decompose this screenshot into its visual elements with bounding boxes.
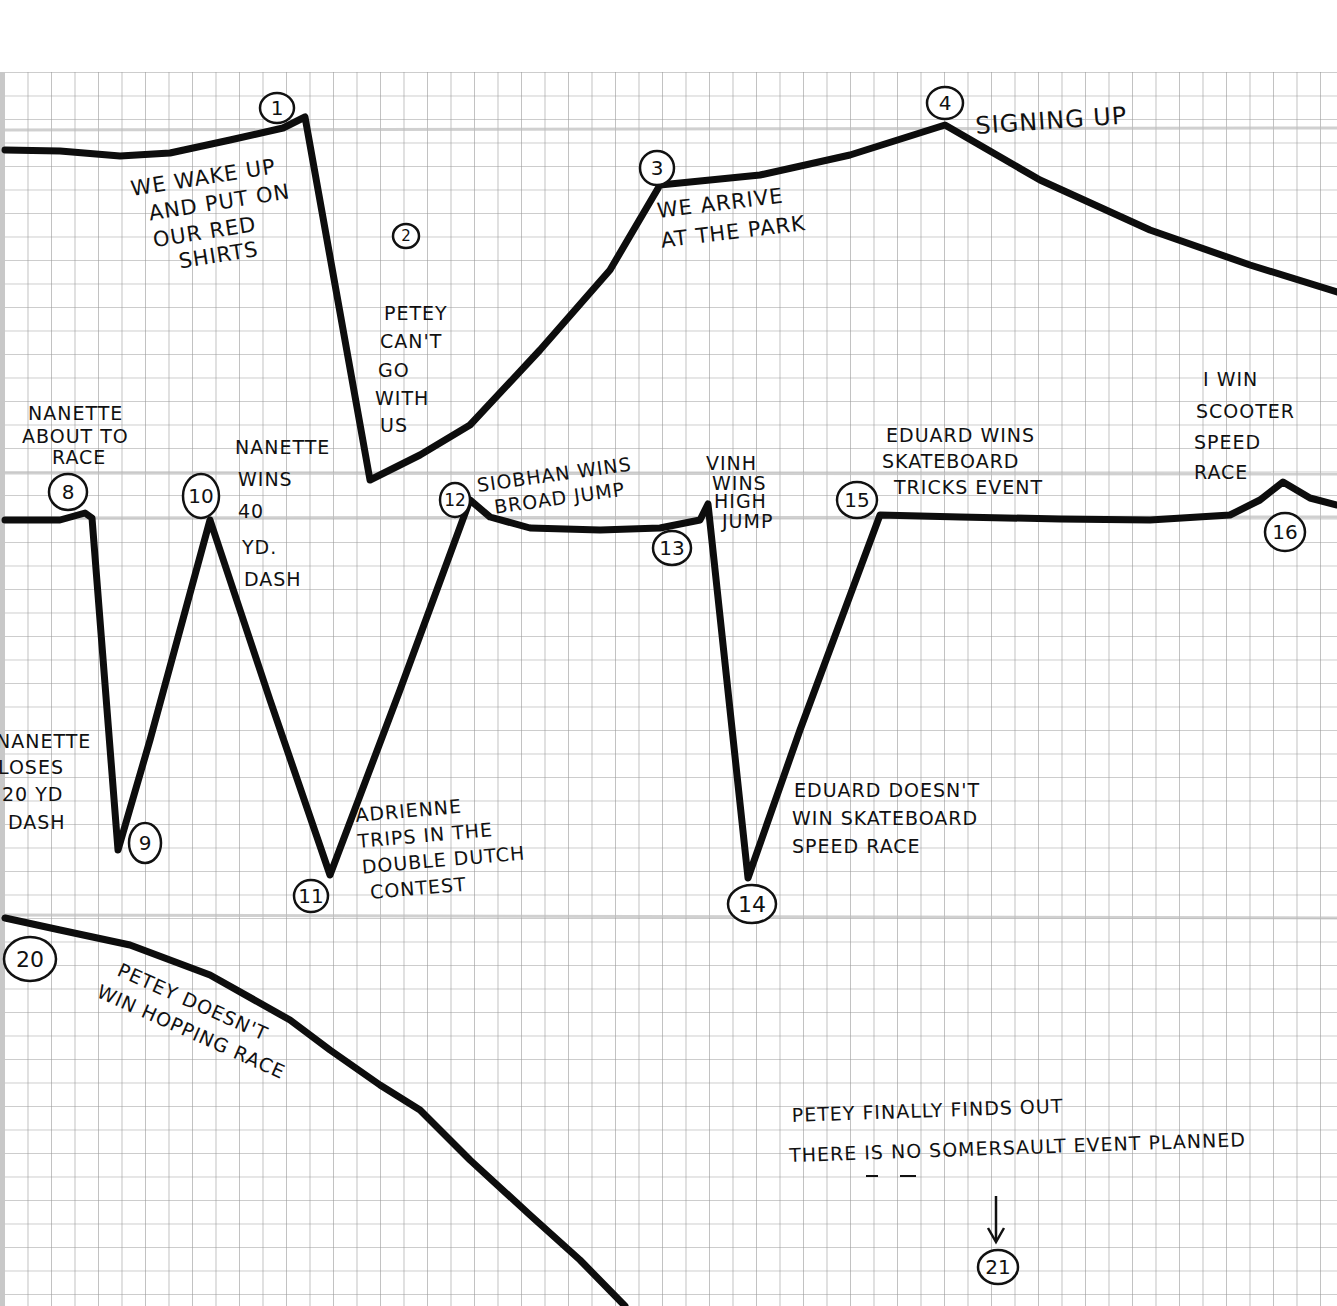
svg-text:1: 1 [271, 96, 284, 120]
svg-text:11: 11 [298, 884, 323, 908]
node-21: 21 [978, 1250, 1018, 1284]
node-20: 20 [4, 937, 56, 981]
node-8: 8 [49, 474, 87, 510]
node-12: 12 [440, 483, 470, 517]
node-14: 14 [728, 885, 776, 923]
svg-text:4: 4 [939, 91, 952, 115]
svg-text:3: 3 [651, 156, 664, 180]
svg-text:10: 10 [188, 484, 213, 508]
svg-text:16: 16 [1272, 520, 1297, 544]
svg-text:20: 20 [16, 947, 44, 972]
svg-text:15: 15 [844, 488, 869, 512]
node-1: 1 [260, 93, 294, 123]
node-15: 15 [837, 482, 877, 518]
node-11: 11 [294, 880, 328, 912]
node-9: 9 [129, 823, 161, 863]
svg-text:21: 21 [985, 1255, 1010, 1279]
svg-text:2: 2 [401, 227, 411, 245]
node-3: 3 [640, 151, 674, 185]
svg-text:12: 12 [444, 490, 466, 510]
svg-text:13: 13 [659, 536, 684, 560]
label-15: EDUARD WINSSKATEBOARDTRICKS EVENT [882, 424, 1043, 498]
svg-text:14: 14 [738, 892, 766, 917]
svg-text:8: 8 [62, 480, 75, 504]
node-4: 4 [927, 87, 963, 119]
svg-text:EDUARD WINSSKATEBOARDTRICKS EV: EDUARD WINSSKATEBOARDTRICKS EVENT [882, 424, 1043, 498]
node-2: 2 [393, 224, 419, 248]
node-16: 16 [1265, 513, 1305, 551]
node-10: 10 [183, 474, 219, 518]
svg-text:9: 9 [139, 831, 152, 855]
graph-paper-sheet: 1 2 3 4 8 9 10 11 12 13 14 15 16 20 21 W… [0, 0, 1337, 1306]
node-13: 13 [653, 531, 691, 565]
